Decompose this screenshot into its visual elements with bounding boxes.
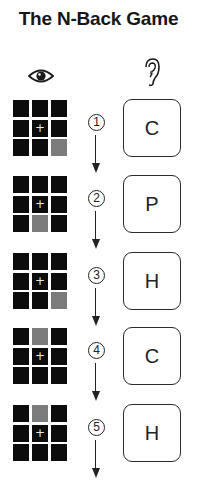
grid-cell [13,196,29,213]
lit-grid-cell [32,215,48,232]
position-grid: + [13,100,67,158]
step-number-badge: 5 [88,419,105,436]
position-grid: + [13,328,67,386]
position-grid: + [13,176,67,234]
ear-icon [142,57,160,87]
grid-cell [13,215,29,232]
down-arrow-icon [95,288,97,324]
page-title: The N-Back Game [0,8,197,30]
lit-grid-cell [51,292,67,309]
center-plus-icon: + [32,120,48,137]
grid-cell [32,139,48,156]
step-number-badge: 3 [88,267,105,284]
grid-cell [51,176,67,193]
step-1: +1C [0,100,197,178]
grid-cell [13,292,29,309]
grid-cell [32,444,48,461]
grid-cell [13,120,29,137]
letter-box: H [123,404,181,462]
grid-cell [13,425,29,442]
center-plus-icon: + [32,425,48,442]
grid-cell: + [32,348,48,365]
grid-cell [51,215,67,232]
letter-box: C [123,99,181,157]
step-4: +4C [0,328,197,406]
letter-box: P [123,175,181,233]
grid-cell [32,292,48,309]
grid-cell [32,176,48,193]
grid-cell: + [32,120,48,137]
step-2: +2P [0,176,197,254]
grid-cell [51,328,67,345]
step-number-badge: 4 [88,342,105,359]
letter-box: C [123,327,181,385]
grid-cell [13,348,29,365]
grid-cell [51,444,67,461]
grid-cell [32,367,48,384]
grid-cell [51,100,67,117]
down-arrow-icon [95,440,97,476]
center-plus-icon: + [32,196,48,213]
center-plus-icon: + [32,348,48,365]
grid-cell [13,176,29,193]
grid-cell: + [32,196,48,213]
down-arrow-icon [95,135,97,171]
grid-cell [32,100,48,117]
down-arrow-icon [95,363,97,399]
grid-cell [51,405,67,422]
position-grid: + [13,405,67,463]
grid-cell [13,367,29,384]
lit-grid-cell [32,405,48,422]
center-plus-icon: + [32,273,48,290]
grid-cell [51,425,67,442]
grid-cell [51,348,67,365]
grid-cell: + [32,425,48,442]
grid-cell [13,405,29,422]
letter-box: H [123,252,181,310]
eye-icon [28,68,54,84]
down-arrow-icon [95,211,97,247]
grid-cell [51,120,67,137]
lit-grid-cell [32,328,48,345]
step-number-badge: 2 [88,190,105,207]
grid-cell [51,253,67,270]
grid-cell [13,444,29,461]
grid-cell [13,328,29,345]
step-3: +3H [0,253,197,331]
grid-cell [13,139,29,156]
grid-cell [13,253,29,270]
grid-cell [51,367,67,384]
grid-cell [13,273,29,290]
step-number-badge: 1 [88,114,105,131]
grid-cell [13,100,29,117]
grid-cell: + [32,273,48,290]
position-grid: + [13,253,67,311]
step-5: +5H [0,405,197,483]
grid-cell [32,253,48,270]
grid-cell [51,273,67,290]
grid-cell [51,196,67,213]
lit-grid-cell [51,139,67,156]
